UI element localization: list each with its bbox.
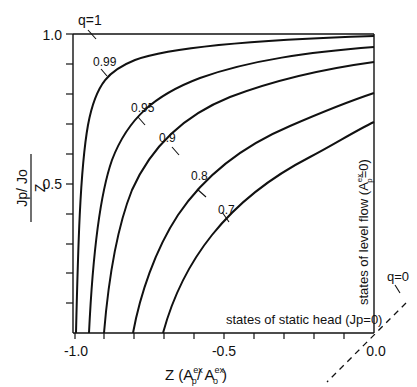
- plot-frame: [73, 34, 374, 333]
- x-axis-label: Z (Aexp/ Aexo ): [165, 365, 227, 386]
- y-tick-label-1: 1.0: [43, 27, 63, 43]
- y-ticks: [66, 34, 73, 303]
- x-tick-label-minus-0-5: -0.5: [212, 343, 236, 359]
- curves: [73, 34, 374, 333]
- curve-label-q-0: q=0: [387, 269, 409, 284]
- curve-q-0-7: [163, 122, 374, 333]
- chart: 1.0 0.5 -1.0 -0.5 0.0 Jp/ Jo Z Z (Aexp/ …: [0, 0, 417, 387]
- curve-q-0-99: [76, 36, 374, 333]
- curve-label-0-7: 0.7: [218, 203, 235, 217]
- x-ticks: [75, 333, 344, 339]
- curve-q-0-8: [133, 93, 374, 333]
- curve-label-0-99: 0.99: [93, 55, 117, 69]
- chart-svg: 1.0 0.5 -1.0 -0.5 0.0 Jp/ Jo Z Z (Aexp/ …: [0, 0, 417, 387]
- y-label-numerator: Jp/ Jo: [14, 169, 30, 207]
- curve-label-q-1: q=1: [78, 12, 102, 28]
- leader-lines: [88, 30, 400, 293]
- curve-label-0-9: 0.9: [159, 131, 176, 145]
- svg-text:Z (Aexp/ Aexo ): Z (Aexp/ Aexo ): [165, 365, 227, 386]
- curve-label-0-8: 0.8: [191, 169, 208, 183]
- x-tick-label-0: 0.0: [366, 343, 386, 359]
- y-label-denominator: Z: [32, 183, 48, 192]
- x-tick-label-minus-1: -1.0: [64, 343, 88, 359]
- annotation-level-flow: states of level flow (Aexp=0): [355, 159, 374, 305]
- x-label-z: Z (A: [165, 366, 193, 383]
- annotation-static-head: states of static head (Jp=0): [226, 312, 382, 327]
- y-axis-label: Jp/ Jo Z: [14, 154, 48, 222]
- curve-label-0-95: 0.95: [131, 101, 155, 115]
- svg-text:states of level flow (Aexp=0): states of level flow (Aexp=0): [355, 159, 374, 305]
